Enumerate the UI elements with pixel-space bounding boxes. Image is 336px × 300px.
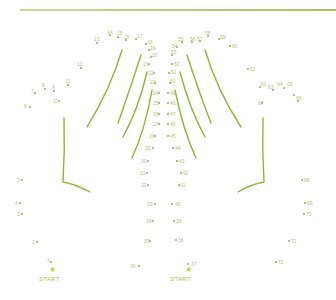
dot-7 [34,92,36,94]
dot-number-label: 44 [175,146,181,151]
dot-number-label: 66 [296,96,302,101]
dot-number-label: 51 [171,70,177,75]
dot-number-label: 23 [150,80,156,85]
dot-number-label: 47 [170,112,176,117]
dot-32 [147,184,149,186]
dot-number-label: 41 [180,183,186,188]
dot-number-label: 67 [258,101,264,106]
dot-number-label: 15 [117,31,123,36]
dot-number-label: 55 [178,37,184,42]
dot-number-label: 65 [287,82,293,87]
hand-outline-strokes [0,0,336,300]
dot-number-label: 38 [178,238,184,243]
dot-47 [167,113,169,115]
dot-number-label: 34 [146,219,152,224]
dot-4 [19,202,21,204]
dot-39 [173,220,175,222]
dot-number-label: 52 [174,62,180,67]
dot-number-label: 72 [278,260,284,265]
dot-number-label: 25 [153,101,159,106]
dot-number-label: 17 [137,34,143,39]
dot-9 [53,90,55,92]
dot-number-label: 36 [130,264,136,269]
dot-number-label: 30 [141,159,147,164]
dot-number-label: 31 [140,171,146,176]
dot-46 [167,123,169,125]
dot-number-label: 7 [31,89,34,94]
left-palm-stroke [63,118,90,192]
dot-30 [147,160,149,162]
dot-number-label: 69 [307,201,313,206]
dot-number-label: 21 [143,62,149,67]
dot-number-label: 5 [17,178,20,183]
dot-number-label: 6 [24,104,27,109]
dot-number-label: 28 [149,134,155,139]
dot-number-label: 53 [171,50,177,55]
dot-61 [247,68,249,70]
dot-number-label: 12 [77,62,83,67]
dot-number-label: 4 [15,201,18,206]
dot-38 [175,239,177,241]
dot-number-label: 68 [304,178,310,183]
dot-number-label: 58 [205,31,211,36]
dot-number-label: 11 [65,79,70,84]
dot-number-label: 33 [147,202,153,207]
start-label: START [170,276,191,282]
dot-number-label: 56 [190,37,196,42]
dot-number-label: 22 [148,71,154,76]
dot-number-label: 14 [107,30,113,35]
left-finger-stroke-2 [118,55,141,123]
dot-12 [80,67,82,69]
dot-72 [275,261,277,263]
dot-number-label: 20 [152,53,158,58]
left-finger-stroke-1 [87,50,122,127]
dot-number-label: 64 [277,82,283,87]
dot-51 [168,72,170,74]
dot-number-label: 27 [153,122,159,127]
dot-33 [154,203,156,205]
dot-48 [167,102,169,104]
dot-64 [283,87,285,89]
dot-number-label: 57 [197,37,203,42]
dot-49 [167,92,169,94]
dot-15 [117,36,119,38]
dot-number-label: 26 [153,112,159,117]
dot-number-label: 42 [183,171,189,176]
dot-number-label: 63 [268,85,274,90]
dot-number-label: 46 [170,122,176,127]
dot-number-label: 70 [306,212,312,217]
dot-number-label: 59 [220,35,226,40]
dot-70 [303,213,305,215]
dot-number-label: 2 [32,240,35,245]
dot-45 [167,135,169,137]
dot-number-label: 24 [153,91,159,96]
right-palm-stroke [238,118,264,192]
dot-number-label: 13 [94,37,100,42]
dot-8 [44,88,46,90]
dot-40 [171,203,173,205]
dot-number-label: 35 [144,239,150,244]
dot-number-label: 29 [145,146,151,151]
dot-number-label: 32 [141,183,147,188]
dot-number-label: 54 [172,44,178,49]
dot-71 [288,240,290,242]
dot-43 [176,160,178,162]
right-finger-stroke-1 [205,50,241,127]
dot-number-label: 10 [53,99,59,104]
dot-number-label: 40 [175,202,181,207]
dot-number-label: 9 [52,85,55,90]
dot-number-label: 43 [179,159,185,164]
dot-44 [172,147,174,149]
dot-number-label: 61 [250,67,256,72]
dot-number-label: 60 [232,44,238,49]
dot-number-label: 48 [170,101,176,106]
dot-36 [138,265,140,267]
dot-6 [29,106,31,108]
start-star-icon: ★ [185,266,192,274]
dot-60 [229,45,231,47]
dot-34 [152,220,154,222]
dot-68 [301,179,303,181]
dot-1 [50,261,52,263]
dot-number-label: 3 [17,212,20,217]
dot-52 [171,63,173,65]
